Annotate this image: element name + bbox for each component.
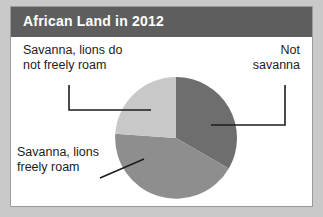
chart-title-bar: African Land in 2012 xyxy=(11,7,312,37)
pie-label-lions-free: Savanna, lions freely roam xyxy=(17,145,99,175)
pie-label-not-savanna: Not savanna xyxy=(253,43,300,73)
pie-slice-lions-not-free[interactable] xyxy=(115,77,176,138)
pie-label-lions-not-free: Savanna, lions do not freely roam xyxy=(23,43,122,73)
chart-plot-area: Savanna, lions do not freely roam Not sa… xyxy=(11,37,313,207)
page-title: African Land in 2012 xyxy=(23,13,164,29)
chart-figure: African Land in 2012 Savanna, lions do n… xyxy=(10,6,313,207)
